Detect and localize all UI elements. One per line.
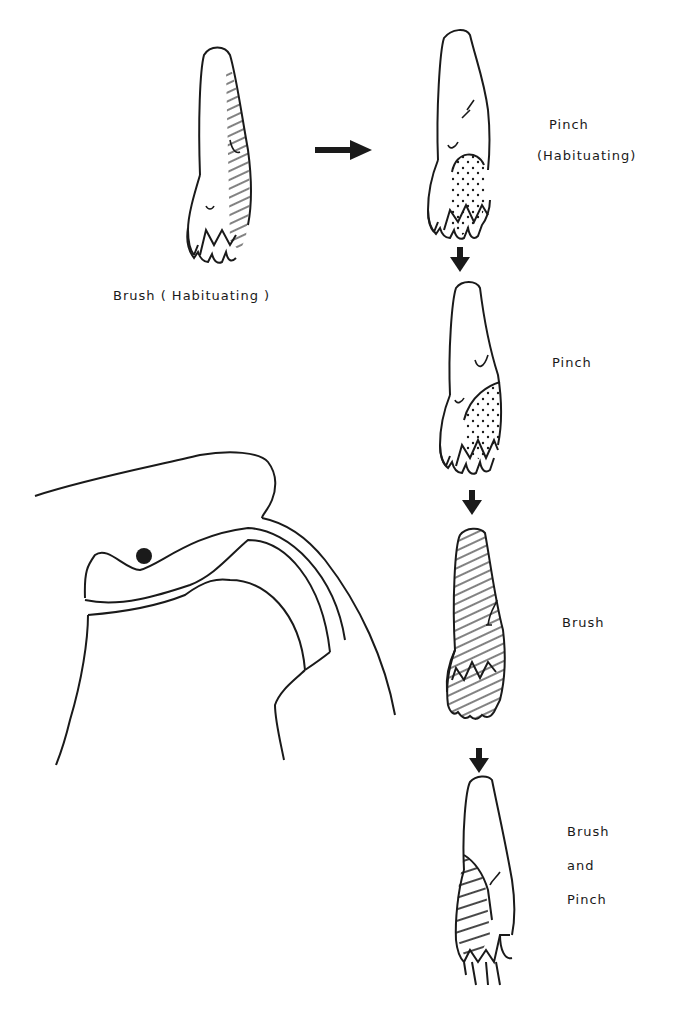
paw-pinch-habituating xyxy=(428,30,490,239)
recording-site-marker xyxy=(136,548,152,564)
label-pinch-habituating-line1: Pinch xyxy=(549,117,589,132)
label-brush-habituating: Brush ( Habituating ) xyxy=(113,288,270,303)
arrow-down-icon xyxy=(462,490,482,515)
label-brush-and-pinch-line1: Brush xyxy=(567,824,610,839)
paw-pinch xyxy=(440,282,502,474)
label-brush-and-pinch-line3: Pinch xyxy=(567,892,607,907)
label-pinch: Pinch xyxy=(552,355,592,370)
brain-section-sketch xyxy=(35,452,395,765)
label-brush: Brush xyxy=(562,615,605,630)
arrow-down-icon xyxy=(450,247,470,272)
paw-brush xyxy=(447,529,505,719)
arrow-right-icon xyxy=(315,140,372,160)
paw-brush-and-pinch xyxy=(456,776,514,985)
paw-brush-habituating xyxy=(187,48,251,263)
label-brush-and-pinch-line2: and xyxy=(567,858,594,873)
label-pinch-habituating-line2: (Habituating) xyxy=(537,148,636,163)
arrow-down-icon xyxy=(469,748,489,773)
